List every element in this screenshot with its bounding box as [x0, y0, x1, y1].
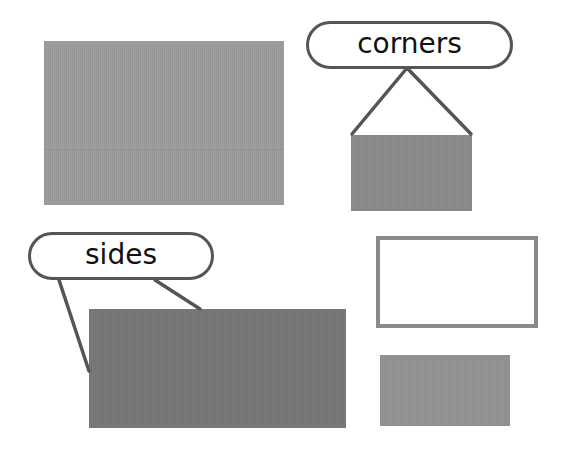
corners-connector-right [407, 68, 471, 134]
corners-target-rectangle [351, 135, 472, 211]
corners-label-text: corners [357, 30, 462, 58]
small-gray-rectangle [380, 355, 510, 426]
sides-connector-left [59, 280, 89, 371]
sides-target-rectangle [89, 309, 346, 428]
rectangle-seam-line [44, 149, 284, 150]
outlined-rectangle [376, 236, 538, 328]
sides-connector-top [155, 280, 200, 309]
corners-callout-label: corners [306, 21, 513, 69]
corners-connector-left [352, 68, 407, 134]
sides-callout-label: sides [28, 232, 214, 280]
sides-label-text: sides [85, 241, 157, 269]
large-gray-rectangle [44, 41, 284, 205]
